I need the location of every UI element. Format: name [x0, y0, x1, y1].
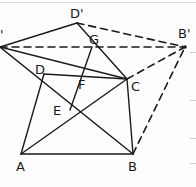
- label-f: F: [78, 78, 85, 91]
- label-a: A: [16, 160, 25, 173]
- label-c: C: [131, 80, 140, 93]
- label-b: B: [128, 160, 137, 173]
- dashed-segment-b-b_prime: [133, 47, 185, 154]
- label-g: G: [89, 33, 99, 46]
- segment-a-d: [21, 74, 44, 154]
- geometry-diagram: ' D' G B' D F C E A B: [0, 0, 196, 187]
- label-d-prime: D': [70, 7, 84, 20]
- label-d: D: [35, 63, 45, 76]
- dashed-segment-c-b_prime: [127, 47, 185, 79]
- label-e: E: [53, 104, 61, 117]
- segment-a_prime-d_prime: [0, 23, 77, 47]
- segment-a-c: [21, 79, 127, 154]
- figure-svg: [0, 0, 196, 187]
- label-a-prime: ': [0, 28, 4, 41]
- label-b-prime: B': [178, 27, 191, 40]
- point-b-prime: [183, 45, 187, 49]
